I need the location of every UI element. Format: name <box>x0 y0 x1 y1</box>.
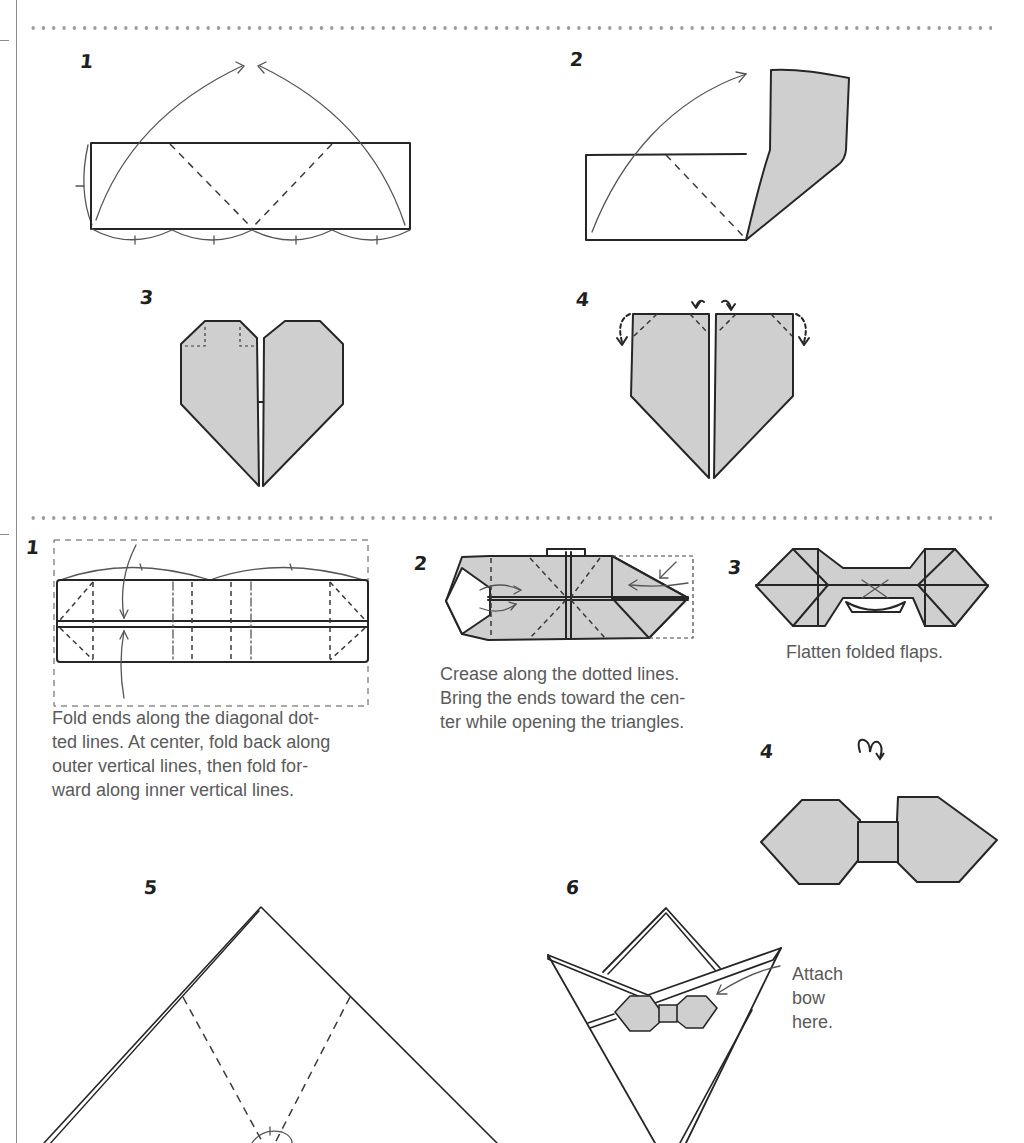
caption-line: here. <box>792 1010 843 1034</box>
caption-line: Attach <box>792 962 843 986</box>
origami-instruction-page: 1 2 3 4 <box>0 0 1024 1143</box>
shirt-step-6-caption: Attach bow here. <box>792 962 843 1034</box>
shirt-step-6-diagram <box>0 0 1024 1143</box>
caption-line: bow <box>792 986 843 1010</box>
